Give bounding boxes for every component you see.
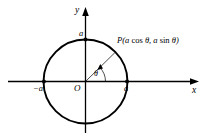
figure-canvas: x y O −a a a θ P(a cos θ, a sin θ) — [0, 0, 210, 140]
point-p-x-coef: a — [125, 35, 129, 45]
origin-label: O — [74, 84, 81, 93]
point-p-x-fn: cos — [131, 35, 142, 45]
angle-arc — [97, 64, 105, 82]
point-p-suffix: ) — [176, 35, 179, 45]
y-axis — [82, 7, 89, 133]
label-positive-a: a — [124, 84, 128, 93]
point-p-prefix: P( — [117, 35, 125, 45]
point-dot-top — [84, 38, 88, 42]
label-top-a: a — [79, 29, 83, 38]
x-axis-label: x — [192, 86, 196, 96]
label-negative-a: −a — [33, 84, 43, 93]
point-p-y-fn: sin — [160, 35, 170, 45]
theta-label: θ — [94, 70, 98, 78]
circle-diagram-svg — [0, 0, 210, 140]
point-p-label: P(a cos θ, a sin θ) — [117, 36, 179, 45]
point-p-y-coef: a — [153, 35, 157, 45]
y-axis-label: y — [75, 6, 79, 16]
